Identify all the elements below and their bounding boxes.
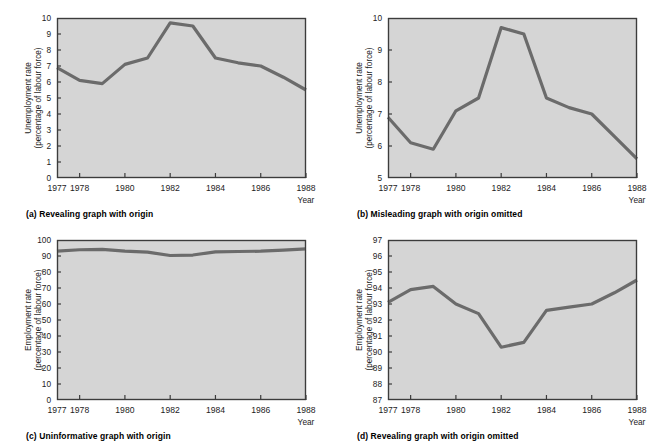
y-axis-tick-label: 10 — [373, 13, 383, 23]
x-axis-tick-label: 1982 — [492, 405, 511, 415]
x-axis-tick-label: 1980 — [115, 183, 134, 193]
panel-d: 8788899091929394959697197719781980198219… — [331, 222, 661, 444]
y-axis-tick-label: 87 — [373, 395, 383, 405]
y-axis-tick-label: 91 — [373, 331, 383, 341]
x-axis-tick-label: 1980 — [115, 405, 134, 415]
y-axis-tick-label: 30 — [42, 347, 52, 357]
y-axis-tick-label: 80 — [42, 267, 52, 277]
x-axis-tick-label: 1984 — [537, 405, 556, 415]
panel-a: 0123456789101977197819801982198419861988… — [0, 0, 330, 222]
y-axis-tick-label: 0 — [46, 173, 51, 183]
y-axis-tick-label: 6 — [46, 77, 51, 87]
y-axis-title-line1: Unemployment rate — [355, 62, 364, 134]
y-axis-tick-label: 9 — [46, 29, 51, 39]
panel-b-caption: (b) Misleading graph with origin omitted — [357, 209, 523, 219]
y-axis-title-line2: (percentage of labour force) — [365, 269, 374, 370]
x-axis-title: Year — [629, 195, 646, 205]
x-axis-title: Year — [298, 195, 315, 205]
y-axis-tick-label: 94 — [373, 283, 383, 293]
x-axis-tick-label: 1977 — [378, 405, 397, 415]
y-axis-tick-label: 0 — [46, 395, 51, 405]
y-axis-tick-label: 1 — [46, 157, 51, 167]
x-axis-tick-label: 1986 — [251, 183, 270, 193]
y-axis-tick-label: 96 — [373, 251, 383, 261]
x-axis-tick-label: 1986 — [582, 183, 601, 193]
x-axis-tick-label: 1984 — [537, 183, 556, 193]
y-axis-title-line2: (percentage of labour force) — [34, 47, 43, 148]
y-axis-tick-label: 8 — [377, 77, 382, 87]
y-axis-tick-label: 9 — [377, 45, 382, 55]
y-axis-tick-label: 90 — [373, 347, 383, 357]
y-axis-tick-label: 95 — [373, 267, 383, 277]
plot-background — [388, 18, 637, 178]
x-axis-tick-label: 1986 — [251, 405, 270, 415]
x-axis-tick-label: 1984 — [206, 183, 225, 193]
y-axis-tick-label: 90 — [42, 251, 52, 261]
plot-background — [388, 240, 637, 400]
y-axis-tick-label: 97 — [373, 235, 383, 245]
y-axis-tick-label: 7 — [377, 109, 382, 119]
x-axis-tick-label: 1978 — [70, 183, 89, 193]
x-axis-tick-label: 1982 — [161, 405, 180, 415]
x-axis-tick-label: 1980 — [446, 183, 465, 193]
panel-a-caption: (a) Revealing graph with origin — [26, 209, 153, 219]
x-axis-tick-label: 1982 — [161, 183, 180, 193]
y-axis-tick-label: 10 — [42, 379, 52, 389]
x-axis-tick-label: 1988 — [296, 183, 315, 193]
y-axis-tick-label: 10 — [42, 13, 52, 23]
chart-c: 0102030405060708090100197719781980198219… — [0, 222, 330, 444]
x-axis-tick-label: 1986 — [582, 405, 601, 415]
y-axis-tick-label: 7 — [46, 61, 51, 71]
y-axis-tick-label: 6 — [377, 141, 382, 151]
x-axis-tick-label: 1978 — [70, 405, 89, 415]
y-axis-tick-label: 3 — [46, 125, 51, 135]
y-axis-title-line2: (percentage of labour force) — [365, 47, 374, 148]
y-axis-tick-label: 5 — [46, 93, 51, 103]
x-axis-tick-label: 1980 — [446, 405, 465, 415]
panel-b: 56789101977197819801982198419861988YearU… — [331, 0, 661, 222]
y-axis-tick-label: 40 — [42, 331, 52, 341]
x-axis-tick-label: 1988 — [627, 183, 646, 193]
plot-background — [57, 18, 306, 178]
panel-d-caption: (d) Revealing graph with origin omitted — [357, 431, 519, 441]
chart-d: 8788899091929394959697197719781980198219… — [331, 222, 661, 444]
x-axis-tick-label: 1977 — [47, 405, 66, 415]
y-axis-tick-label: 60 — [42, 299, 52, 309]
panel-c: 0102030405060708090100197719781980198219… — [0, 222, 330, 444]
x-axis-tick-label: 1978 — [401, 183, 420, 193]
x-axis-tick-label: 1978 — [401, 405, 420, 415]
panel-c-caption: (c) Uninformative graph with origin — [26, 431, 171, 441]
y-axis-tick-label: 88 — [373, 379, 383, 389]
x-axis-tick-label: 1977 — [47, 183, 66, 193]
y-axis-tick-label: 50 — [42, 315, 52, 325]
y-axis-tick-label: 20 — [42, 363, 52, 373]
figure-panel-grid: 0123456789101977197819801982198419861988… — [0, 0, 661, 445]
x-axis-tick-label: 1982 — [492, 183, 511, 193]
y-axis-tick-label: 5 — [377, 173, 382, 183]
x-axis-title: Year — [298, 417, 315, 427]
x-axis-title: Year — [629, 417, 646, 427]
chart-a: 0123456789101977197819801982198419861988… — [0, 0, 330, 222]
y-axis-title-line1: Employment rate — [355, 289, 364, 351]
y-axis-title-line1: Unemployment rate — [24, 62, 33, 134]
y-axis-tick-label: 89 — [373, 363, 383, 373]
x-axis-tick-label: 1984 — [206, 405, 225, 415]
x-axis-tick-label: 1988 — [296, 405, 315, 415]
y-axis-tick-label: 4 — [46, 109, 51, 119]
plot-background — [57, 240, 306, 400]
y-axis-tick-label: 70 — [42, 283, 52, 293]
y-axis-tick-label: 2 — [46, 141, 51, 151]
y-axis-tick-label: 8 — [46, 45, 51, 55]
y-axis-title-line2: (percentage of labour force) — [34, 269, 43, 370]
x-axis-tick-label: 1977 — [378, 183, 397, 193]
y-axis-tick-label: 93 — [373, 299, 383, 309]
x-axis-tick-label: 1988 — [627, 405, 646, 415]
chart-b: 56789101977197819801982198419861988YearU… — [331, 0, 661, 222]
y-axis-title-line1: Employment rate — [24, 289, 33, 351]
y-axis-tick-label: 92 — [373, 315, 383, 325]
y-axis-tick-label: 100 — [37, 235, 51, 245]
